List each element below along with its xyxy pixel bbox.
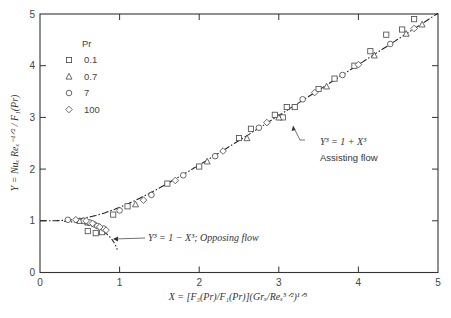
x-tick-label: 2 [196, 277, 202, 288]
y-tick-label: 5 [29, 9, 35, 20]
square-legend-icon [66, 57, 71, 62]
diamond-marker [264, 119, 271, 126]
square-marker [85, 229, 90, 234]
x-tick-label: 1 [117, 277, 123, 288]
assisting-flow-curve [40, 13, 438, 221]
y-tick-label: 0 [29, 267, 35, 278]
square-marker [332, 76, 337, 81]
y-tick-label: 3 [29, 112, 35, 123]
chart: 012345012345 Pr 0.10.77100 Y³ = 1 + X³ A… [0, 0, 451, 318]
diamond-marker [172, 177, 179, 184]
annotation-assisting: Y³ = 1 + X³ Assisting flow [292, 126, 378, 163]
circle-marker [300, 97, 306, 103]
axis-ticks: 012345012345 [29, 9, 441, 288]
diamond-marker [411, 25, 418, 32]
y-tick-label: 1 [29, 215, 35, 226]
circle-marker [117, 208, 123, 214]
x-tick-label: 3 [276, 277, 282, 288]
x-tick-label: 4 [356, 277, 362, 288]
triangle-legend-icon [66, 73, 72, 79]
square-marker [111, 212, 116, 217]
annotation-opposing: Y³ = 1 − X³; Opposing flow [113, 232, 259, 243]
y-tick-label: 4 [29, 60, 35, 71]
triangle-marker [244, 135, 250, 141]
triangle-marker [324, 83, 330, 89]
circle-marker [65, 217, 71, 223]
opposing-equation: Y³ = 1 − X³; Opposing flow [148, 232, 259, 243]
square-marker [236, 135, 241, 140]
square-marker [316, 86, 321, 91]
x-axis-label: X = [F₃(Pr)/F₁(Pr)](Grₓ/Reₓ⁵ᐟ²)¹ᐟ⁵ [168, 291, 308, 303]
assisting-label: Assisting flow [320, 152, 378, 163]
fit-curves [40, 13, 438, 249]
square-marker [272, 112, 277, 117]
circle-marker [180, 173, 186, 179]
triangle-marker [133, 201, 139, 207]
square-marker [368, 49, 373, 54]
square-marker [93, 231, 98, 236]
circle-marker [387, 41, 393, 47]
data-points [65, 17, 425, 236]
y-axis-label: Y = Nuₓ Reₓ⁻¹ᐟ² / F₁(Pr) [9, 94, 21, 191]
circle-legend-icon [66, 90, 72, 96]
square-marker [125, 204, 130, 209]
circle-marker [212, 153, 218, 159]
square-marker [384, 32, 389, 37]
circle-marker [340, 72, 346, 78]
legend-item-label: 0.7 [84, 71, 97, 82]
legend-item-label: 7 [84, 87, 89, 98]
diamond-legend-icon [66, 106, 73, 113]
legend-title: Pr [82, 38, 92, 49]
legend: Pr 0.10.77100 [66, 38, 100, 115]
x-tick-label: 0 [37, 277, 43, 288]
square-marker [292, 104, 297, 109]
opposing-flow-curve [64, 221, 117, 249]
legend-item-label: 0.1 [84, 54, 97, 65]
square-marker [248, 126, 253, 131]
square-marker [412, 17, 417, 22]
square-marker [284, 104, 289, 109]
square-marker [197, 164, 202, 169]
assisting-equation: Y³ = 1 + X³ [320, 136, 367, 147]
legend-item-label: 100 [84, 104, 100, 115]
square-marker [165, 181, 170, 186]
circle-marker [149, 192, 155, 198]
circle-marker [256, 125, 262, 131]
y-tick-label: 2 [29, 164, 35, 175]
x-tick-label: 5 [435, 277, 441, 288]
square-marker [400, 27, 405, 32]
